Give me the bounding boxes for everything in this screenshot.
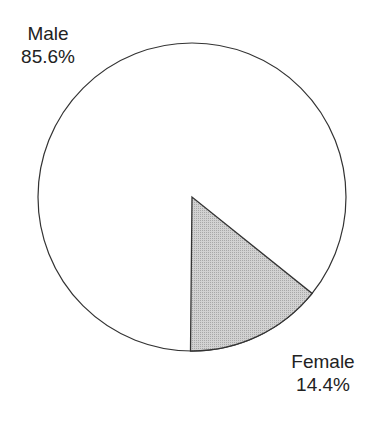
female-label-name: Female bbox=[278, 350, 368, 373]
male-label-name: Male bbox=[8, 22, 88, 45]
female-label: Female 14.4% bbox=[278, 350, 368, 396]
female-label-pct: 14.4% bbox=[278, 373, 368, 396]
male-label: Male 85.6% bbox=[8, 22, 88, 68]
male-label-pct: 85.6% bbox=[8, 45, 88, 68]
